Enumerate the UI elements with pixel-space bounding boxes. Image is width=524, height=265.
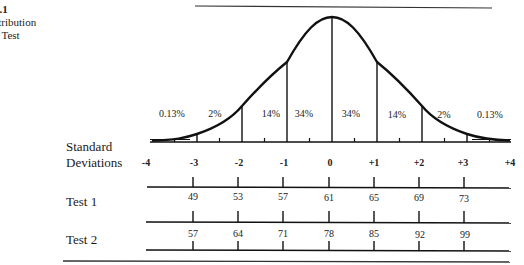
test2-value: 85 — [369, 228, 379, 239]
sd-tick-label: +2 — [414, 157, 425, 168]
test1-label: Test 1 — [66, 194, 97, 209]
test2-value: 99 — [460, 229, 470, 240]
test1-value: 57 — [278, 191, 288, 202]
pct-label: 14% — [262, 108, 280, 119]
sd-tick-label: -2 — [235, 157, 243, 168]
sd-tick-label: 0 — [328, 157, 333, 168]
sd-label-line-1: Standard — [66, 139, 113, 154]
test2-value: 64 — [233, 228, 243, 239]
pct-label: 0.13% — [159, 108, 185, 119]
test1-value: 53 — [233, 191, 243, 202]
bell-curve — [152, 17, 510, 141]
pct-label: 0.13% — [477, 109, 503, 120]
sd-tick-label: +1 — [369, 157, 380, 168]
test1-value: 69 — [414, 192, 424, 203]
sd-tick-label: +3 — [458, 157, 469, 168]
bottom-rule — [63, 261, 510, 262]
test1-value: 65 — [369, 192, 379, 203]
sd-label-line-2: Deviations — [66, 155, 122, 170]
normal-distribution-chart: 0.13% 2% 14% 34% 34% 14% 2% 0.13% Standa… — [0, 0, 524, 265]
test1-value: 73 — [459, 193, 469, 204]
sd-tick-label: +4 — [505, 157, 516, 168]
test1-value: 61 — [324, 192, 334, 203]
test1-values: 49 53 57 61 65 69 73 — [188, 191, 469, 204]
pct-label: 2% — [208, 108, 221, 119]
test2-label: Test 2 — [66, 232, 97, 247]
pct-label: 2% — [437, 109, 450, 120]
test1-value: 49 — [188, 191, 198, 202]
test2-value: 71 — [278, 228, 288, 239]
sd-divider-lines — [197, 17, 467, 142]
pct-label: 34% — [342, 108, 360, 119]
pct-label: 34% — [295, 108, 313, 119]
test2-value: 57 — [188, 228, 198, 239]
test2-values: 57 64 71 78 85 92 99 — [188, 228, 470, 240]
test2-value: 78 — [324, 228, 334, 239]
score-scale-lines — [146, 177, 511, 251]
sd-tick-label: -4 — [142, 157, 150, 168]
pct-label: 14% — [388, 109, 406, 120]
test2-value: 92 — [415, 229, 425, 240]
sd-tick-label: -1 — [280, 157, 288, 168]
sd-axis-labels: -4 -3 -2 -1 0 +1 +2 +3 +4 — [142, 157, 516, 168]
top-rule — [195, 6, 492, 8]
sd-tick-label: -3 — [190, 157, 198, 168]
area-percentages: 0.13% 2% 14% 34% 34% 14% 2% 0.13% — [159, 108, 503, 120]
